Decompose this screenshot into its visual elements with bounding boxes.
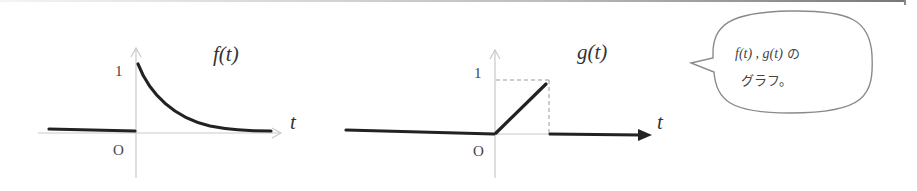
bubble-text: f(t) , g(t) の グラフ。 bbox=[735, 40, 865, 94]
graph-g-curve bbox=[346, 84, 640, 135]
graph-g-arrowhead bbox=[638, 129, 652, 141]
graph-f-tick-1: 1 bbox=[115, 63, 123, 80]
graph-g-axes bbox=[490, 50, 548, 178]
bubble-math: f(t) , g(t) bbox=[735, 46, 783, 61]
bubble-particle: の bbox=[783, 46, 800, 61]
graph-g-title: g(t) bbox=[577, 40, 607, 65]
graph-f-title: f(t) bbox=[213, 42, 239, 67]
graph-g-x-axis-label: t bbox=[657, 110, 663, 135]
graphs-canvas bbox=[0, 0, 917, 191]
graph-g-origin: O bbox=[473, 143, 484, 160]
graph-f-origin: O bbox=[113, 142, 124, 159]
bubble-line-2: グラフ。 bbox=[735, 67, 865, 94]
graph-g-tick-1: 1 bbox=[474, 65, 482, 82]
graph-f-curve bbox=[49, 64, 271, 131]
bubble-line-1: f(t) , g(t) の bbox=[735, 40, 865, 67]
graph-f-x-axis-label: t bbox=[290, 110, 296, 135]
graph-f-axes bbox=[38, 48, 281, 178]
